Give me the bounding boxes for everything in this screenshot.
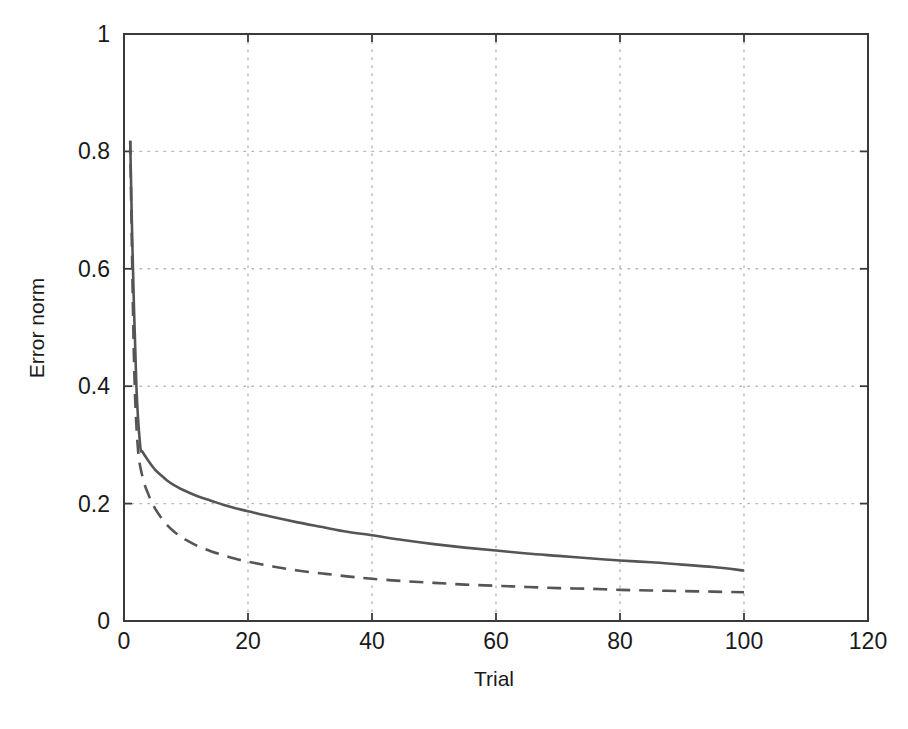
x-tick-label: 20 xyxy=(235,628,261,654)
x-tick-label: 120 xyxy=(849,628,887,654)
chart-canvas: 020406080100120 00.20.40.60.81 Trial Err… xyxy=(0,0,908,729)
x-tick-label: 100 xyxy=(725,628,763,654)
y-tick-label: 0.2 xyxy=(78,491,110,517)
x-tick-label: 0 xyxy=(118,628,131,654)
y-axis-title: Error norm xyxy=(25,278,48,378)
x-tick-label: 60 xyxy=(483,628,509,654)
figure-container: 020406080100120 00.20.40.60.81 Trial Err… xyxy=(0,0,908,729)
x-axis-title: Trial xyxy=(474,667,514,690)
y-tick-label: 0.8 xyxy=(78,138,110,164)
x-tick-label: 40 xyxy=(359,628,385,654)
y-tick-label: 0.6 xyxy=(78,256,110,282)
x-tick-label: 80 xyxy=(607,628,633,654)
y-tick-label: 0.4 xyxy=(78,373,110,399)
y-tick-label: 1 xyxy=(97,21,110,47)
y-tick-label: 0 xyxy=(97,608,110,634)
